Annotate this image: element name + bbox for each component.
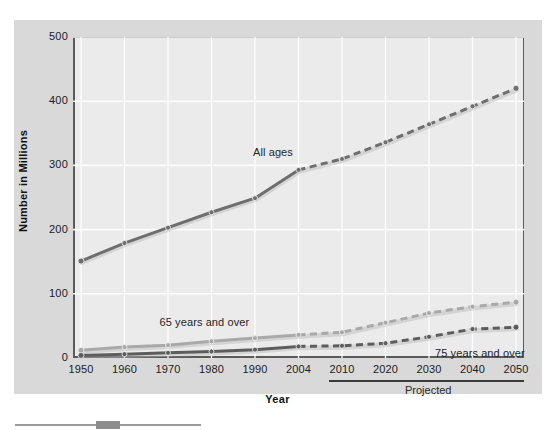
projected-range-bar	[329, 380, 524, 382]
series-label-65-plus: 65 years and over	[160, 316, 250, 328]
footer-rule-marker	[96, 421, 120, 429]
x-tick-2004: 2004	[279, 363, 319, 375]
x-tick-1990: 1990	[235, 363, 275, 375]
x-tick-1960: 1960	[105, 363, 145, 375]
series-label-all-ages: All ages	[253, 146, 293, 158]
x-tick-2010: 2010	[322, 363, 362, 375]
y-tick-300: 300	[30, 159, 68, 170]
y-tick-100: 100	[30, 288, 68, 299]
x-tick-2040: 2040	[453, 363, 493, 375]
x-tick-1950: 1950	[61, 363, 101, 375]
x-tick-2050: 2050	[496, 363, 536, 375]
x-tick-2020: 2020	[366, 363, 406, 375]
x-axis-title: Year	[0, 393, 555, 405]
y-tick-0: 0	[30, 352, 68, 363]
x-tick-2030: 2030	[409, 363, 449, 375]
plot-area-svg	[73, 37, 524, 358]
y-tick-200: 200	[30, 224, 68, 235]
x-tick-1980: 1980	[192, 363, 232, 375]
x-tick-1970: 1970	[148, 363, 188, 375]
y-tick-400: 400	[30, 95, 68, 106]
series-label-75-plus: 75 years and over	[435, 347, 525, 359]
projected-label: Projected	[405, 384, 451, 396]
y-tick-500: 500	[30, 31, 68, 42]
y-axis-title: Number in Millions	[17, 111, 29, 251]
population-line-chart-figure: 5004003002001000 19501960197019801990200…	[0, 0, 555, 430]
